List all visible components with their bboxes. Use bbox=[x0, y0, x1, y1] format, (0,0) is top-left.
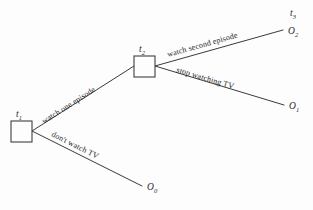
outcome-label-O1: O1 bbox=[289, 101, 299, 113]
node-label-t1: t1 bbox=[16, 109, 22, 121]
decision-node-t2[interactable] bbox=[134, 56, 155, 77]
decision-node-t1[interactable] bbox=[11, 121, 32, 142]
time-marker-t3: t3 bbox=[290, 8, 297, 20]
decision-tree-diagram: t1 t2 t3 O2 O1 O0 watch one episode don'… bbox=[0, 0, 313, 210]
edge-dont-watch-tv bbox=[32, 131, 142, 186]
edge-label-watch-second-episode: watch second episode bbox=[166, 30, 239, 58]
node-label-t2: t2 bbox=[139, 44, 146, 56]
time-marker-group: t3 bbox=[290, 8, 297, 20]
outcome-label-O2: O2 bbox=[288, 26, 299, 38]
node-label-group: t1 t2 bbox=[16, 44, 146, 121]
edge-label-watch-one-episode: watch one episode bbox=[40, 85, 97, 126]
edge-label-dont-watch-tv: don't watch TV bbox=[50, 130, 100, 161]
edge-label-stop-watching-tv: stop watching TV bbox=[175, 65, 235, 91]
outcome-label-O0: O0 bbox=[147, 182, 158, 194]
